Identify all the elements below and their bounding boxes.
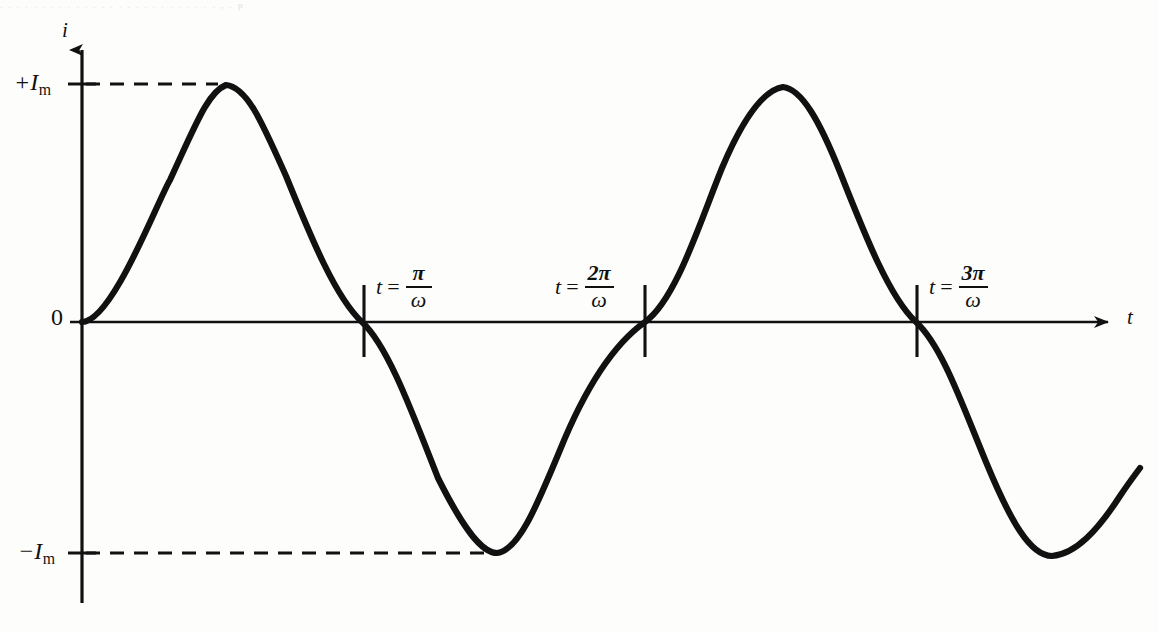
time-label-1-equals: = (387, 274, 399, 300)
time-label-2-numerator: 2π (585, 262, 614, 286)
time-label-2-fraction: 2π ω (585, 262, 614, 312)
figure-canvas: . . . . . . . . . . . . . . . . . . . . … (0, 0, 1158, 633)
time-label-2pi-over-omega: t = 2π ω (555, 262, 614, 312)
negative-amplitude-label: −Im (18, 539, 55, 567)
time-label-1-fraction: π ω (406, 262, 432, 312)
time-label-1-lhs: t (376, 274, 382, 300)
waveform-plot (0, 0, 1158, 633)
negative-amplitude-symbol: −I (18, 538, 42, 564)
time-label-pi-over-omega: t = π ω (376, 262, 432, 312)
time-label-3-numerator: 3π (959, 262, 988, 286)
time-label-3-equals: = (940, 274, 952, 300)
time-label-2-lhs: t (555, 274, 561, 300)
y-axis-label: i (62, 20, 68, 41)
time-label-1-denominator: ω (408, 288, 430, 312)
positive-amplitude-label: +Im (14, 70, 51, 98)
positive-amplitude-subscript: m (39, 81, 51, 98)
time-label-3-denominator: ω (962, 288, 984, 312)
positive-amplitude-symbol: +I (14, 69, 38, 95)
time-label-3pi-over-omega: t = 3π ω (929, 262, 988, 312)
origin-label: 0 (51, 305, 63, 329)
negative-amplitude-subscript: m (43, 550, 55, 567)
time-label-3-lhs: t (929, 274, 935, 300)
time-label-1-numerator: π (410, 262, 428, 286)
time-label-2-denominator: ω (588, 288, 610, 312)
sine-waveform-curve (82, 85, 1140, 556)
time-label-2-equals: = (566, 274, 578, 300)
x-axis-label: t (1127, 307, 1133, 328)
time-label-3-fraction: 3π ω (959, 262, 988, 312)
